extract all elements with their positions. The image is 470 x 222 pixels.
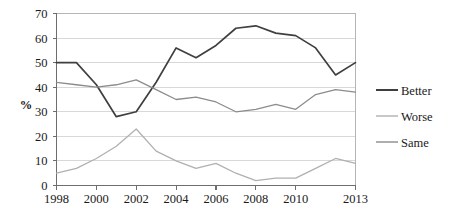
- x-axis-tick-marks: [57, 186, 356, 190]
- x-tick-label: 1998: [44, 192, 69, 206]
- series-lines-group: [57, 26, 356, 181]
- x-tick-label: 2000: [84, 192, 109, 206]
- x-tick-label: 2013: [343, 192, 368, 206]
- y-tick-label: 40: [35, 81, 48, 95]
- x-axis-tick-labels: 19982000200220042006200820102013: [44, 192, 368, 206]
- line-chart-figure: 010203040506070 199820002002200420062008…: [0, 0, 470, 222]
- x-tick-label: 2002: [124, 192, 149, 206]
- x-tick-label: 2004: [164, 192, 190, 206]
- y-axis-tick-marks: [53, 14, 57, 186]
- y-axis-tick-labels: 010203040506070: [35, 7, 48, 193]
- legend-label-better: Better: [401, 84, 432, 98]
- y-tick-label: 50: [35, 56, 48, 70]
- x-tick-label: 2006: [203, 192, 228, 206]
- y-tick-label: 30: [35, 105, 48, 119]
- legend: BetterWorseSame: [376, 84, 433, 150]
- series-line-better: [57, 26, 356, 117]
- x-tick-label: 2010: [283, 192, 308, 206]
- legend-label-same: Same: [401, 136, 429, 150]
- y-tick-label: 10: [35, 154, 48, 168]
- y-tick-label: 70: [35, 7, 48, 21]
- series-line-same: [57, 80, 356, 112]
- legend-label-worse: Worse: [401, 110, 433, 124]
- y-tick-label: 20: [35, 130, 48, 144]
- x-tick-label: 2008: [243, 192, 268, 206]
- y-axis-label: %: [20, 98, 33, 112]
- chart-canvas: 010203040506070 199820002002200420062008…: [0, 0, 470, 222]
- y-tick-label: 60: [35, 32, 48, 46]
